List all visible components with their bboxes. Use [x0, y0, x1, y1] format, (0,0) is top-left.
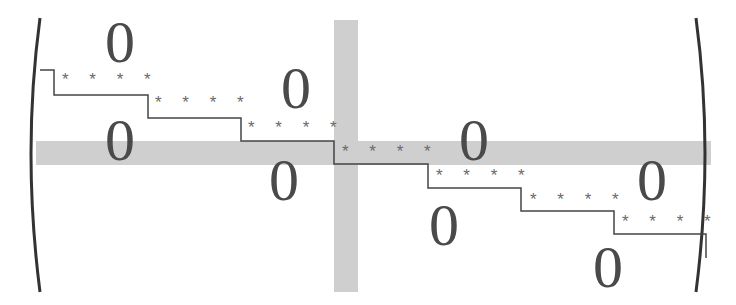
left-parenthesis — [31, 18, 40, 292]
staircase-line — [40, 70, 706, 258]
zero-block-label: 0 — [637, 150, 667, 210]
zero-block-label: 0 — [105, 110, 135, 170]
nonzero-star-block: * * * * — [342, 142, 439, 162]
zero-block-label: 0 — [429, 195, 459, 255]
zero-block-label: 0 — [105, 12, 135, 72]
nonzero-star-block: * * * * — [530, 190, 627, 210]
zero-block-label: 0 — [459, 110, 489, 170]
nonzero-star-block: * * * * — [622, 212, 719, 232]
zero-block-label: 0 — [593, 237, 623, 297]
right-parenthesis — [696, 18, 705, 292]
nonzero-star-block: * * * * — [155, 93, 252, 113]
zero-block-label: 0 — [281, 58, 311, 118]
nonzero-star-block: * * * * — [248, 118, 345, 138]
nonzero-star-block: * * * * — [436, 166, 533, 186]
nonzero-star-block: * * * * — [62, 70, 159, 90]
zero-block-label: 0 — [269, 150, 299, 210]
